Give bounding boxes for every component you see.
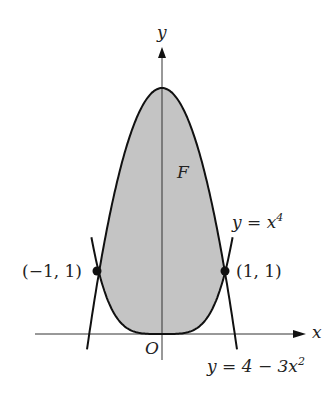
point-right-label: (1, 1) bbox=[236, 263, 282, 280]
y-axis-arrow-icon bbox=[158, 47, 166, 58]
point-right bbox=[221, 267, 230, 276]
point-left-label: (−1, 1) bbox=[22, 263, 82, 280]
curve-quartic-text: y = x bbox=[232, 212, 276, 232]
point-left bbox=[93, 267, 102, 276]
x-axis-arrow-icon bbox=[293, 330, 306, 338]
curve-parabola-label: y = 4 − 3x2 bbox=[207, 356, 305, 375]
curve-quartic-exp: 4 bbox=[276, 211, 283, 224]
y-axis-label: y bbox=[157, 24, 167, 41]
x-axis-label: x bbox=[312, 324, 322, 341]
origin-label: O bbox=[145, 340, 159, 357]
plot-area bbox=[0, 0, 336, 394]
region-label: F bbox=[177, 164, 189, 181]
curve-parabola-text: y = 4 − 3x bbox=[207, 356, 298, 376]
curve-parabola-exp: 2 bbox=[298, 355, 305, 368]
curve-quartic-label: y = x4 bbox=[232, 212, 283, 231]
